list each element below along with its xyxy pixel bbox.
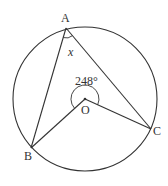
label-a: A xyxy=(61,11,70,25)
radius-oc xyxy=(85,99,151,129)
label-angle-248: 248° xyxy=(75,74,98,88)
radius-ob xyxy=(31,99,85,148)
center-dot xyxy=(84,98,87,101)
label-angle-x: x xyxy=(67,45,74,59)
label-o: O xyxy=(81,103,90,117)
angle-x-arc xyxy=(63,36,72,38)
circle-diagram: A B C O x 248° xyxy=(0,0,168,186)
label-c: C xyxy=(153,124,161,138)
label-b: B xyxy=(24,149,32,163)
